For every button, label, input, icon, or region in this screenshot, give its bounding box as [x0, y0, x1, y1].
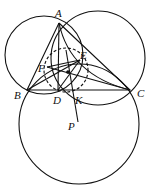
- label-p: P: [68, 121, 75, 132]
- label-a: A: [55, 8, 62, 19]
- label-k: K: [75, 95, 82, 106]
- center-dot: [67, 71, 70, 74]
- geometry-diagram: A B C D K E F P: [0, 0, 149, 192]
- triangle-abc: [27, 23, 130, 90]
- label-f: F: [38, 63, 45, 74]
- right-circle: [51, 11, 145, 105]
- label-b: B: [14, 90, 21, 101]
- label-e: E: [80, 50, 87, 61]
- label-c: C: [137, 88, 144, 99]
- label-d: D: [53, 95, 61, 106]
